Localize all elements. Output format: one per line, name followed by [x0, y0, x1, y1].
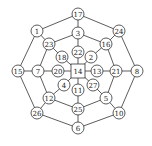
graph-diagram: 1732214112561242316182157201321842712526…	[0, 0, 152, 146]
edge-10-6	[78, 113, 119, 128]
node-label: 6	[76, 125, 81, 133]
edge-8-10	[119, 71, 137, 113]
node-label: 4	[62, 82, 67, 90]
node-18: 18	[56, 51, 68, 63]
node-label: 14	[74, 68, 83, 76]
node-12: 12	[43, 92, 55, 104]
node-3: 3	[72, 27, 84, 39]
node-4: 4	[58, 79, 70, 91]
node-label: 2	[89, 54, 93, 62]
node-label: 27	[89, 82, 98, 90]
node-10: 10	[113, 107, 125, 119]
node-13: 13	[91, 65, 103, 77]
node-label: 24	[115, 28, 124, 36]
node-label: 26	[33, 110, 42, 118]
node-24: 24	[113, 25, 125, 37]
node-label: 3	[76, 30, 80, 38]
node-label: 7	[36, 68, 40, 76]
edge-26-15	[18, 71, 37, 113]
node-11: 11	[72, 84, 84, 96]
node-label: 12	[45, 95, 54, 103]
node-16: 16	[100, 38, 112, 50]
node-27: 27	[87, 79, 99, 91]
edge-15-1	[18, 31, 37, 71]
node-17: 17	[72, 8, 84, 20]
node-label: 13	[93, 68, 102, 76]
node-label: 25	[74, 106, 83, 114]
node-1: 1	[31, 25, 43, 37]
node-5: 5	[100, 92, 112, 104]
node-label: 16	[102, 41, 111, 49]
node-21: 21	[110, 65, 122, 77]
node-15: 15	[12, 65, 24, 77]
edge-24-8	[119, 31, 137, 71]
node-label: 11	[74, 87, 83, 95]
node-label: 17	[74, 11, 83, 19]
node-23: 23	[43, 38, 55, 50]
node-label: 23	[45, 41, 54, 49]
edge-17-1	[37, 14, 78, 31]
node-8: 8	[131, 65, 143, 77]
node-7: 7	[32, 65, 44, 77]
node-label: 22	[74, 49, 83, 57]
node-label: 10	[115, 110, 124, 118]
node-25: 25	[72, 103, 84, 115]
node-label: 18	[58, 54, 67, 62]
node-label: 15	[14, 68, 23, 76]
node-14: 14	[71, 64, 85, 78]
node-2: 2	[85, 51, 97, 63]
node-label: 21	[112, 68, 121, 76]
node-label: 1	[35, 28, 39, 36]
edge-17-24	[78, 14, 119, 31]
node-label: 5	[104, 95, 108, 103]
node-label: 20	[54, 68, 63, 76]
edge-6-26	[37, 113, 78, 128]
node-26: 26	[31, 107, 43, 119]
node-20: 20	[52, 65, 64, 77]
node-6: 6	[72, 122, 84, 134]
node-label: 8	[135, 68, 139, 76]
node-22: 22	[72, 46, 84, 58]
